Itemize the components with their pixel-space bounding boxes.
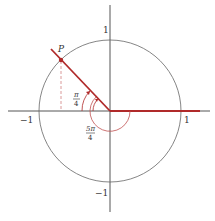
angle-large-numerator: 5π — [86, 125, 95, 133]
arc-arrowhead-icon — [86, 91, 90, 95]
angle-small-denominator: 4 — [74, 100, 79, 108]
y-pos-label: 1 — [103, 25, 109, 35]
angle-small-numerator: π — [73, 91, 79, 99]
unit-circle-diagram: P 1 −1 1 −1 π 4 5π 4 — [0, 0, 215, 221]
angle-large-denominator: 4 — [88, 134, 93, 142]
y-neg-label: −1 — [95, 188, 108, 198]
x-neg-label: −1 — [20, 115, 33, 125]
x-pos-label: 1 — [184, 115, 190, 125]
point-p — [59, 58, 63, 62]
point-label: P — [57, 44, 65, 54]
